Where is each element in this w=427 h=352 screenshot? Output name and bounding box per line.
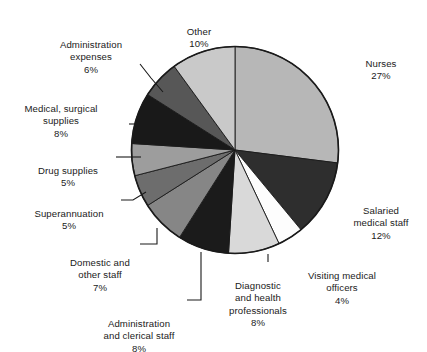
label-other-percent: 10% [168, 38, 230, 50]
label-administration-expenses-percent: 6% [50, 64, 132, 76]
label-administration-clerical-staff-percent: 8% [88, 343, 190, 352]
label-diagnostic-health-professionals: Diagnostic and health professionals 8% [222, 268, 294, 341]
label-drug-supplies: Drug supplies 5% [27, 153, 109, 202]
label-diagnostic-health-professionals-percent: 8% [222, 317, 294, 329]
label-visiting-medical-officers: Visiting medical officers 4% [288, 258, 396, 319]
pie-slice [235, 47, 338, 163]
label-superannuation-percent: 5% [25, 220, 113, 232]
leader-line [187, 252, 201, 300]
label-other-text: Other [187, 26, 212, 37]
label-visiting-medical-officers-text: Visiting medical officers [308, 270, 376, 293]
label-superannuation: Superannuation 5% [25, 196, 113, 245]
label-visiting-medical-officers-percent: 4% [288, 295, 396, 307]
label-medical-surgical-supplies: Medical, surgical supplies 8% [15, 91, 107, 152]
label-domestic-other-staff: Domestic and other staff 7% [60, 245, 140, 306]
pie-slices [131, 47, 338, 254]
label-administration-clerical-staff: Administration and clerical staff 8% [88, 306, 190, 352]
label-drug-supplies-text: Drug supplies [38, 165, 98, 176]
label-other: Other 10% [168, 14, 230, 63]
label-salaried-medical-staff-text: Salaried medical staff [354, 205, 409, 228]
label-administration-clerical-staff-text: Administration and clerical staff [104, 318, 175, 341]
leader-line [140, 228, 157, 244]
label-nurses: Nurses 27% [338, 46, 424, 95]
label-superannuation-text: Superannuation [34, 208, 103, 219]
label-nurses-percent: 27% [338, 70, 424, 82]
label-administration-expenses-text: Administration expenses [60, 39, 122, 62]
label-nurses-text: Nurses [366, 58, 397, 69]
label-domestic-other-staff-text: Domestic and other staff [70, 257, 130, 280]
label-salaried-medical-staff: Salaried medical staff 12% [336, 193, 426, 254]
label-administration-expenses: Administration expenses 6% [50, 27, 132, 88]
label-medical-surgical-supplies-percent: 8% [15, 128, 107, 140]
label-salaried-medical-staff-percent: 12% [336, 230, 426, 242]
label-diagnostic-health-professionals-text: Diagnostic and health professionals [229, 280, 287, 315]
pie-chart: Nurses 27% Salaried medical staff 12% Vi… [0, 0, 427, 352]
label-drug-supplies-percent: 5% [27, 177, 109, 189]
label-domestic-other-staff-percent: 7% [60, 282, 140, 294]
label-medical-surgical-supplies-text: Medical, surgical supplies [24, 103, 97, 126]
